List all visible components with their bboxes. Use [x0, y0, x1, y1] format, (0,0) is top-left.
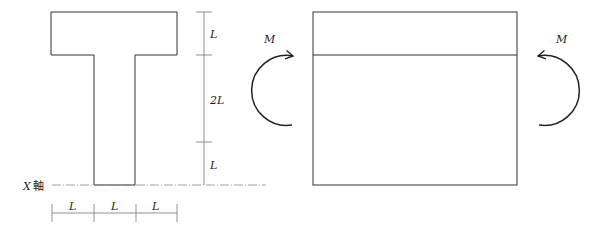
- moment-arrow-right-icon: [538, 55, 579, 125]
- x-axis-var: X: [22, 180, 32, 193]
- moment-label-right: M: [555, 33, 568, 46]
- t-section-outline: [51, 12, 177, 185]
- dim-label-middle: 2L: [209, 94, 224, 107]
- dim-label-h3: L: [151, 200, 159, 213]
- x-axis-label: 軸: [33, 179, 44, 193]
- moment-arrow-left-icon: [252, 55, 293, 125]
- dim-label-h1: L: [68, 200, 76, 213]
- dim-label-bottom: L: [209, 159, 217, 172]
- dim-label-h2: L: [110, 200, 118, 213]
- dim-label-top: L: [209, 28, 217, 41]
- figure-canvas: L 2L L X 軸 L L L M M: [0, 0, 604, 242]
- moment-label-left: M: [263, 33, 276, 46]
- beam-outline: [313, 12, 517, 185]
